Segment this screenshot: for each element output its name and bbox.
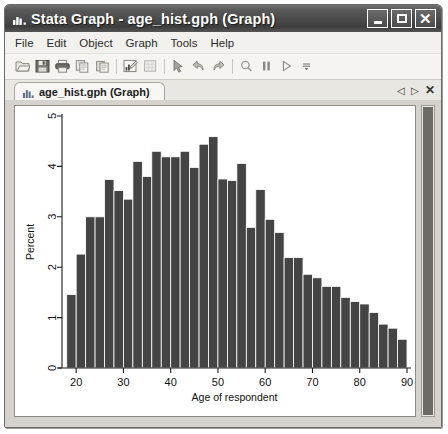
histogram-bar — [76, 254, 85, 368]
x-tick-label: 70 — [306, 376, 318, 388]
histogram-svg: 012345Percent2030405060708090Age of resp… — [15, 106, 415, 416]
zoom-icon[interactable] — [237, 57, 256, 76]
pause-icon[interactable] — [257, 57, 276, 76]
histogram-bar — [312, 278, 321, 368]
menu-item-object[interactable]: Object — [79, 37, 112, 49]
x-tick-label: 30 — [117, 376, 129, 388]
close-icon: ✕ — [419, 11, 432, 26]
histogram-bar — [360, 304, 369, 368]
minimize-button[interactable] — [367, 9, 388, 28]
x-tick-label: 60 — [259, 376, 271, 388]
histogram-bar — [67, 294, 76, 368]
x-tick-label: 50 — [212, 376, 224, 388]
histogram-bar — [105, 180, 114, 369]
histogram-bar — [218, 179, 227, 368]
menu-item-graph[interactable]: Graph — [126, 37, 158, 49]
copy-icon[interactable] — [73, 57, 92, 76]
toolbar-separator-3 — [232, 59, 233, 74]
histogram-bar — [331, 286, 340, 368]
histogram-bar — [171, 157, 180, 368]
tab-age-hist-graph[interactable]: age_hist.gph (Graph) — [14, 82, 165, 101]
menu-item-help[interactable]: Help — [210, 37, 234, 49]
x-tick-label: 20 — [70, 376, 82, 388]
histogram-bar — [133, 161, 142, 368]
stata-bar-icon — [13, 13, 26, 26]
vertical-scrollbar[interactable] — [421, 105, 435, 417]
menu-item-tools[interactable]: Tools — [171, 37, 198, 49]
y-tick-label: 3 — [46, 214, 58, 220]
window-title: Stata Graph - age_hist.gph (Graph) — [31, 11, 275, 27]
histogram-bar — [209, 137, 218, 368]
maximize-button[interactable] — [391, 9, 412, 28]
toolbar-separator-2 — [164, 59, 165, 74]
graph-editor-icon[interactable] — [121, 57, 140, 76]
menu-item-edit[interactable]: Edit — [47, 37, 67, 49]
histogram-bar — [142, 176, 151, 368]
histogram-bar — [180, 151, 189, 368]
histogram-bar — [246, 227, 255, 368]
tab-navigation: ◁ ▷ ✕ — [397, 83, 435, 97]
histogram-bar — [369, 313, 378, 368]
save-icon[interactable] — [33, 57, 52, 76]
menu-item-file[interactable]: File — [15, 37, 34, 49]
histogram-bar — [86, 217, 95, 368]
histogram-plot: 012345Percent2030405060708090Age of resp… — [15, 106, 415, 416]
histogram-bar — [350, 301, 359, 368]
play-icon[interactable] — [277, 57, 296, 76]
histogram-bar — [123, 199, 132, 368]
stata-graph-window: Stata Graph - age_hist.gph (Graph) ✕ Fil… — [4, 4, 442, 428]
undo-icon[interactable] — [189, 57, 208, 76]
toolbar-overflow-icon[interactable] — [297, 57, 316, 76]
histogram-bar — [190, 167, 199, 368]
tab-prev-icon[interactable]: ◁ — [397, 85, 405, 96]
print-icon[interactable] — [53, 57, 72, 76]
histogram-bar — [303, 274, 312, 368]
histogram-bar — [294, 258, 303, 368]
document-tab-strip: age_hist.gph (Graph) ◁ ▷ ✕ — [5, 80, 441, 102]
paste-icon[interactable] — [93, 57, 112, 76]
histogram-bar — [199, 144, 208, 368]
y-tick-label: 5 — [46, 113, 58, 119]
grid-icon[interactable] — [141, 57, 160, 76]
x-tick-label: 90 — [401, 376, 413, 388]
histogram-bar — [95, 217, 104, 368]
tab-label: age_hist.gph (Graph) — [39, 86, 150, 98]
graph-panel[interactable]: 012345Percent2030405060708090Age of resp… — [14, 105, 416, 417]
x-axis-title: Age of respondent — [192, 391, 278, 403]
histogram-bar — [237, 163, 246, 368]
histogram-bar — [256, 190, 265, 368]
histogram-bar — [284, 258, 293, 368]
histogram-bar — [388, 328, 397, 368]
scrollbar-thumb[interactable] — [423, 107, 433, 415]
redo-icon[interactable] — [209, 57, 228, 76]
window-controls: ✕ — [367, 9, 438, 28]
y-axis-title: Percent — [24, 224, 36, 260]
histogram-bar — [322, 286, 331, 368]
close-button[interactable]: ✕ — [415, 9, 436, 28]
menu-bar: File Edit Object Graph Tools Help — [5, 32, 441, 54]
tab-close-icon[interactable]: ✕ — [425, 83, 435, 97]
histogram-bar — [227, 181, 236, 368]
histogram-bar — [341, 297, 350, 368]
x-tick-label: 80 — [354, 376, 366, 388]
histogram-bar — [152, 151, 161, 368]
graph-client-area: 012345Percent2030405060708090Age of resp… — [5, 100, 441, 427]
histogram-bar — [379, 324, 388, 368]
y-tick-label: 2 — [46, 264, 58, 270]
y-tick-label: 1 — [46, 315, 58, 321]
histogram-bar — [114, 191, 123, 368]
open-icon[interactable] — [13, 57, 32, 76]
toolbar — [5, 54, 441, 80]
title-bar: Stata Graph - age_hist.gph (Graph) ✕ — [5, 5, 441, 32]
toolbar-separator-1 — [116, 59, 117, 74]
histogram-bar — [161, 157, 170, 368]
histogram-bar — [398, 339, 407, 368]
y-tick-label: 0 — [46, 365, 58, 371]
y-tick-label: 4 — [46, 163, 58, 169]
x-tick-label: 40 — [165, 376, 177, 388]
tab-next-icon[interactable]: ▷ — [411, 85, 419, 96]
histogram-bar — [265, 219, 274, 368]
pointer-icon[interactable] — [169, 57, 188, 76]
histogram-bar — [275, 232, 284, 368]
bar-chart-icon — [23, 87, 34, 98]
